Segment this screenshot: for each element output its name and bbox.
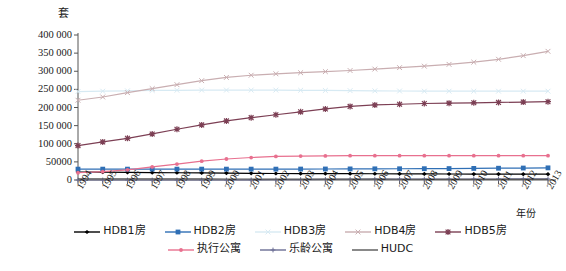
x-axis-tick-label: 1995 — [100, 169, 119, 191]
x-axis-unit-label: 年份 — [516, 205, 536, 220]
x-axis-tick-label: 2001 — [248, 169, 267, 191]
legend-label: HUDC — [381, 243, 413, 254]
legend-item-HDB1房[interactable]: HDB1房 — [73, 222, 145, 238]
data-point-marker — [270, 248, 275, 253]
x-axis-tick-label: 2008 — [421, 169, 440, 191]
x-axis-tick-label: 2007 — [397, 169, 416, 191]
legend-label: 乐龄公寓 — [289, 243, 333, 254]
legend-label: HDB3房 — [284, 225, 326, 236]
x-axis-tick-label: 1998 — [174, 169, 193, 191]
x-axis-tick-label: 2000 — [223, 169, 242, 191]
legend-marker-icon — [351, 242, 379, 254]
legend-item-HDB2房[interactable]: HDB2房 — [164, 222, 236, 238]
chart-legend: HDB1房HDB2房HDB3房HDB4房HDB5房执行公寓乐龄公寓HUDC — [30, 222, 550, 256]
x-axis-tick-label: 2006 — [372, 169, 391, 191]
legend-item-乐龄公寓[interactable]: 乐龄公寓 — [259, 240, 333, 256]
x-axis-tick-label: 2010 — [471, 169, 490, 191]
legend-marker-icon — [434, 224, 462, 236]
x-axis-tick-label: 2012 — [520, 169, 539, 191]
legend-item-HUDC[interactable]: HUDC — [351, 240, 413, 256]
legend-item-HDB3房[interactable]: HDB3房 — [254, 222, 326, 238]
legend-item-HDB4房[interactable]: HDB4房 — [344, 222, 416, 238]
x-axis-tick-label: 1997 — [149, 169, 168, 191]
x-axis-tick-label: 1994 — [75, 169, 94, 191]
legend-marker-icon — [164, 224, 192, 236]
data-point-marker — [445, 229, 451, 235]
legend-marker-icon — [73, 224, 101, 236]
legend-item-执行公寓[interactable]: 执行公寓 — [167, 240, 241, 256]
legend-label: 执行公寓 — [197, 243, 241, 254]
legend-label: HDB5房 — [464, 225, 506, 236]
legend-label: HDB1房 — [103, 225, 145, 236]
x-axis-tick-label: 1996 — [124, 169, 143, 191]
x-axis-tick-label: 2004 — [322, 169, 341, 191]
x-axis-tick-label: 2003 — [298, 169, 317, 191]
data-point-marker — [85, 230, 90, 234]
legend-label: HDB2房 — [194, 225, 236, 236]
x-axis-tick-label: 2005 — [347, 169, 366, 191]
x-axis-tick-label: 2013 — [545, 169, 564, 191]
x-axis-tick-labels: 1994199519961997199819992000200120022003… — [0, 0, 566, 230]
legend-marker-icon — [344, 224, 372, 236]
x-axis-tick-label: 2009 — [446, 169, 465, 191]
legend-marker-icon — [259, 242, 287, 254]
x-axis-tick-label: 2002 — [273, 169, 292, 191]
data-point-marker — [179, 248, 183, 252]
legend-item-HDB5房[interactable]: HDB5房 — [434, 222, 506, 238]
legend-marker-icon — [254, 224, 282, 236]
x-axis-tick-label: 2011 — [496, 169, 514, 191]
x-axis-tick-label: 1999 — [199, 169, 218, 191]
legend-label: HDB4房 — [374, 225, 416, 236]
line-chart: 套 050000100 000150 000200 000250 000300 … — [0, 0, 566, 271]
data-point-marker — [175, 230, 180, 235]
legend-marker-icon — [167, 242, 195, 254]
